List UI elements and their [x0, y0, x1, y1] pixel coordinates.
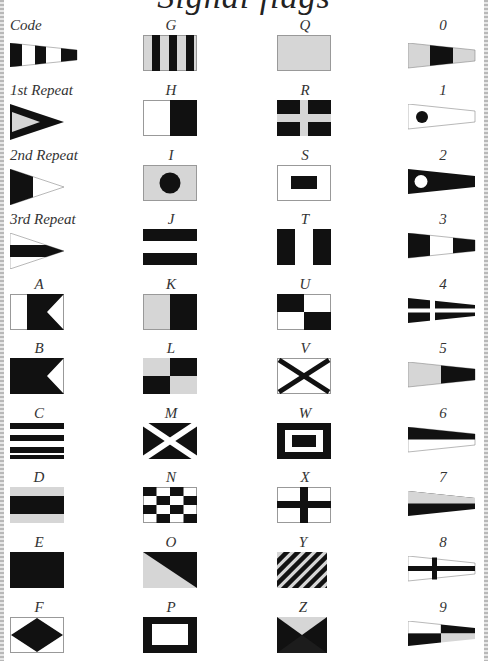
- flag-y-icon: [277, 552, 327, 588]
- cell-i: I: [143, 147, 263, 211]
- label-0: 0: [408, 17, 478, 33]
- label-w: W: [277, 405, 333, 421]
- label-o: O: [143, 534, 199, 550]
- cell-q: Q: [277, 17, 397, 81]
- cell-w: W: [277, 405, 397, 469]
- cell-b: B: [10, 340, 130, 404]
- flag-q-icon: [277, 35, 331, 71]
- pennant-6-icon: [408, 427, 478, 453]
- flag-t-icon: [277, 229, 331, 265]
- pennant-8-icon: [408, 556, 478, 582]
- cell-k: K: [143, 276, 263, 340]
- cell-m: M: [143, 405, 263, 469]
- label-2: 2: [408, 147, 478, 163]
- flag-p-icon: [143, 617, 197, 653]
- label-5: 5: [408, 340, 478, 356]
- cell-t: T: [277, 211, 397, 275]
- label-8: 8: [408, 534, 478, 550]
- flag-c-icon: [10, 423, 64, 459]
- cell-5: 5: [408, 340, 488, 404]
- pennant-5-icon: [408, 362, 478, 388]
- label-p: P: [143, 599, 199, 615]
- cell-u: U: [277, 276, 397, 340]
- cell-f: F: [10, 599, 130, 661]
- cell-d: D: [10, 469, 130, 533]
- flag-j-icon: [143, 229, 197, 265]
- cell-8: 8: [408, 534, 488, 598]
- pennant-9-icon: [408, 621, 478, 647]
- flag-d-icon: [10, 487, 64, 523]
- label-x: X: [277, 469, 333, 485]
- cell-o: O: [143, 534, 263, 598]
- label-q: Q: [277, 17, 333, 33]
- cell-7: 7: [408, 469, 488, 533]
- label-l: L: [143, 340, 199, 356]
- label-9: 9: [408, 599, 478, 615]
- cell-h: H: [143, 82, 263, 146]
- flag-k-icon: [143, 294, 197, 330]
- label-d: D: [10, 469, 68, 485]
- cell-x: X: [277, 469, 397, 533]
- flag-b-icon: [10, 358, 64, 394]
- pennant-3-icon: [408, 233, 478, 259]
- pennant-4-icon: [408, 298, 478, 324]
- pennant-7-icon: [408, 491, 478, 517]
- flag-a-icon: [10, 294, 64, 330]
- cell-p: P: [143, 599, 263, 661]
- flag-u-icon: [277, 294, 331, 330]
- cell-v: V: [277, 340, 397, 404]
- flag-z-icon: [277, 617, 327, 653]
- label-first-repeat: 1st Repeat: [10, 82, 130, 98]
- cell-a: A: [10, 276, 130, 340]
- cell-0: 0: [408, 17, 488, 81]
- label-g: G: [143, 17, 199, 33]
- flag-g-icon: [143, 35, 197, 71]
- cell-z: Z: [277, 599, 397, 661]
- pennant-0-icon: [408, 43, 478, 69]
- flag-r-icon: [277, 100, 331, 136]
- pennant-2-icon: [408, 169, 478, 195]
- flag-x-icon: [277, 487, 331, 523]
- label-s: S: [277, 147, 333, 163]
- cell-first-repeat: 1st Repeat: [10, 82, 130, 146]
- label-u: U: [277, 276, 333, 292]
- label-m: M: [143, 405, 199, 421]
- label-n: N: [143, 469, 199, 485]
- cell-4: 4: [408, 276, 488, 340]
- flag-f-icon: [10, 617, 64, 653]
- label-t: T: [277, 211, 333, 227]
- cell-second-repeat: 2nd Repeat: [10, 147, 130, 211]
- label-b: B: [10, 340, 68, 356]
- label-1: 1: [408, 82, 478, 98]
- cell-r: R: [277, 82, 397, 146]
- cell-c: C: [10, 405, 130, 469]
- label-second-repeat: 2nd Repeat: [10, 147, 130, 163]
- label-c: C: [10, 405, 68, 421]
- flag-m-icon: [143, 423, 197, 459]
- label-r: R: [277, 82, 333, 98]
- cell-n: N: [143, 469, 263, 533]
- label-a: A: [10, 276, 68, 292]
- flag-o-icon: [143, 552, 197, 588]
- label-z: Z: [277, 599, 329, 615]
- cell-3: 3: [408, 211, 488, 275]
- label-y: Y: [277, 534, 329, 550]
- flag-v-icon: [277, 358, 331, 394]
- label-k: K: [143, 276, 199, 292]
- flag-i-icon: [143, 165, 197, 201]
- cell-l: L: [143, 340, 263, 404]
- label-h: H: [143, 82, 199, 98]
- flag-h-icon: [143, 100, 197, 136]
- cell-e: E: [10, 534, 130, 598]
- page-title: Signal flags: [0, 0, 488, 16]
- label-f: F: [10, 599, 68, 615]
- third-repeat-icon: [10, 233, 66, 269]
- cell-6: 6: [408, 405, 488, 469]
- second-repeat-icon: [10, 169, 66, 205]
- flag-s-icon: [277, 165, 331, 201]
- flag-n-icon: [143, 487, 197, 523]
- first-repeat-icon: [10, 104, 66, 140]
- label-i: I: [143, 147, 199, 163]
- label-e: E: [10, 534, 68, 550]
- flag-l-icon: [143, 358, 197, 394]
